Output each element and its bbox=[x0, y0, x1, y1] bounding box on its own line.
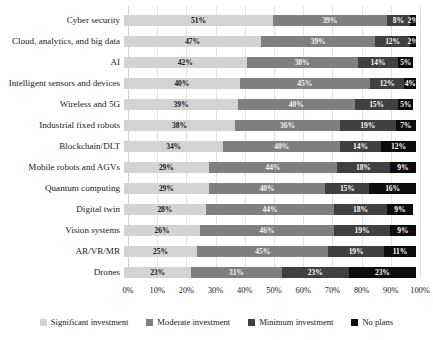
bar-track: 28%44%18%9% bbox=[124, 204, 416, 216]
bar-segment[interactable]: 23% bbox=[349, 267, 416, 279]
plot-area: Cyber security51%39%8%2%Cloud, analytics… bbox=[0, 6, 433, 278]
bar-segment[interactable]: 11% bbox=[384, 246, 416, 258]
bar-row: Intelligent sensors and devices40%45%12%… bbox=[0, 73, 433, 94]
bar-segment[interactable]: 15% bbox=[355, 99, 399, 111]
bar-row: AI42%38%14%5% bbox=[0, 52, 433, 73]
bar-segment[interactable]: 40% bbox=[238, 99, 355, 111]
bar-segment-value: 18% bbox=[356, 164, 371, 172]
bar-track: 39%40%15%5% bbox=[124, 99, 416, 111]
bar-segment-value: 39% bbox=[311, 38, 326, 46]
category-label: Digital twin bbox=[0, 204, 124, 215]
bar-segment-value: 9% bbox=[397, 227, 408, 235]
bar-segment[interactable]: 39% bbox=[273, 15, 387, 27]
bar-segment-value: 38% bbox=[295, 59, 310, 67]
bar-segment[interactable]: 2% bbox=[410, 15, 416, 27]
bar-row: Drones23%31%23%23% bbox=[0, 262, 433, 283]
bar-track: 34%40%14%12% bbox=[124, 141, 416, 153]
bar-segment[interactable]: 31% bbox=[191, 267, 282, 279]
category-label: Industrial fixed robots bbox=[0, 120, 124, 131]
bar-segment[interactable]: 7% bbox=[396, 120, 416, 132]
bar-segment[interactable]: 28% bbox=[124, 204, 206, 216]
bar-segment[interactable]: 45% bbox=[240, 78, 370, 90]
bar-segment[interactable]: 42% bbox=[124, 57, 247, 69]
bar-segment[interactable]: 51% bbox=[124, 15, 273, 27]
bar-segment[interactable]: 36% bbox=[235, 120, 340, 132]
bar-row: AR/VR/MR25%45%19%11% bbox=[0, 241, 433, 262]
bar-segment-value: 9% bbox=[394, 206, 405, 214]
bar-segment[interactable]: 5% bbox=[398, 99, 413, 111]
bar-segment-value: 28% bbox=[157, 206, 172, 214]
bar-segment[interactable]: 40% bbox=[209, 183, 326, 195]
legend-label: Minimum investment bbox=[259, 317, 333, 327]
category-label: Mobile robots and AGVs bbox=[0, 162, 124, 173]
legend-swatch-icon bbox=[248, 319, 255, 326]
bar-segment[interactable]: 47% bbox=[124, 36, 261, 48]
bar-track: 29%44%18%9% bbox=[124, 162, 416, 174]
chart-legend: Significant investmentModerate investmen… bbox=[0, 313, 433, 331]
bar-segment[interactable]: 45% bbox=[197, 246, 328, 258]
bar-segment[interactable]: 15% bbox=[325, 183, 369, 195]
bar-segment-value: 25% bbox=[153, 248, 168, 256]
bar-segment-value: 39% bbox=[173, 101, 188, 109]
legend-item[interactable]: Moderate investment bbox=[146, 317, 230, 327]
bar-rows: Cyber security51%39%8%2%Cloud, analytics… bbox=[0, 6, 433, 278]
bar-segment[interactable]: 16% bbox=[369, 183, 416, 195]
bar-segment[interactable]: 29% bbox=[124, 183, 209, 195]
bar-segment[interactable]: 18% bbox=[337, 162, 390, 174]
bar-segment[interactable]: 19% bbox=[334, 225, 389, 237]
x-axis-tick-label: 70% bbox=[325, 285, 340, 297]
legend-item[interactable]: Significant investment bbox=[40, 317, 129, 327]
bar-segment[interactable]: 39% bbox=[124, 99, 238, 111]
bar-segment[interactable]: 29% bbox=[124, 162, 209, 174]
bar-segment[interactable]: 38% bbox=[124, 120, 235, 132]
bar-segment-value: 8% bbox=[393, 17, 404, 25]
bar-segment[interactable]: 14% bbox=[358, 57, 399, 69]
legend-item[interactable]: Minimum investment bbox=[248, 317, 333, 327]
bar-segment[interactable]: 5% bbox=[398, 57, 413, 69]
category-label: Cloud, analytics, and big data bbox=[0, 36, 124, 47]
bar-segment[interactable]: 4% bbox=[404, 78, 416, 90]
category-label: Drones bbox=[0, 267, 124, 278]
bar-segment[interactable]: 18% bbox=[334, 204, 387, 216]
bar-segment[interactable]: 23% bbox=[124, 267, 191, 279]
bar-segment[interactable]: 12% bbox=[375, 36, 410, 48]
bar-segment[interactable]: 19% bbox=[340, 120, 395, 132]
legend-label: Significant investment bbox=[51, 317, 129, 327]
bar-segment-value: 26% bbox=[155, 227, 170, 235]
bar-segment[interactable]: 12% bbox=[381, 141, 416, 153]
category-label: Cyber security bbox=[0, 15, 124, 26]
bar-segment-value: 46% bbox=[260, 227, 275, 235]
bar-track: 47%39%12%2% bbox=[124, 36, 416, 48]
bar-segment[interactable]: 19% bbox=[328, 246, 383, 258]
bar-segment[interactable]: 9% bbox=[390, 162, 416, 174]
bar-segment[interactable]: 39% bbox=[261, 36, 375, 48]
bar-segment[interactable]: 46% bbox=[200, 225, 334, 237]
bar-segment[interactable]: 23% bbox=[282, 267, 349, 279]
bar-segment[interactable]: 26% bbox=[124, 225, 200, 237]
bar-row: Blockchain/DLT34%40%14%12% bbox=[0, 136, 433, 157]
category-label: AI bbox=[0, 57, 124, 68]
bar-segment[interactable]: 9% bbox=[390, 225, 416, 237]
bar-row: Cloud, analytics, and big data47%39%12%2… bbox=[0, 31, 433, 52]
bar-segment-value: 45% bbox=[255, 248, 270, 256]
bar-segment[interactable]: 40% bbox=[223, 141, 340, 153]
bar-row: Mobile robots and AGVs29%44%18%9% bbox=[0, 157, 433, 178]
bar-segment[interactable]: 44% bbox=[209, 162, 337, 174]
bar-track: 29%40%15%16% bbox=[124, 183, 416, 195]
bar-segment-value: 5% bbox=[400, 59, 411, 67]
bar-segment[interactable]: 9% bbox=[387, 204, 413, 216]
bar-segment[interactable]: 2% bbox=[410, 36, 416, 48]
x-axis-tick-label: 0% bbox=[122, 285, 133, 297]
bar-segment[interactable]: 38% bbox=[247, 57, 358, 69]
bar-segment[interactable]: 44% bbox=[206, 204, 334, 216]
x-axis-tick-label: 100% bbox=[410, 285, 430, 297]
bar-segment[interactable]: 34% bbox=[124, 141, 223, 153]
bar-segment[interactable]: 25% bbox=[124, 246, 197, 258]
bar-segment[interactable]: 14% bbox=[340, 141, 381, 153]
bar-segment-value: 39% bbox=[322, 17, 337, 25]
bar-segment-value: 47% bbox=[185, 38, 200, 46]
bar-segment[interactable]: 12% bbox=[370, 78, 405, 90]
bar-segment[interactable]: 40% bbox=[124, 78, 240, 90]
category-label: Quantum computing bbox=[0, 183, 124, 194]
legend-item[interactable]: No plans bbox=[351, 317, 393, 327]
